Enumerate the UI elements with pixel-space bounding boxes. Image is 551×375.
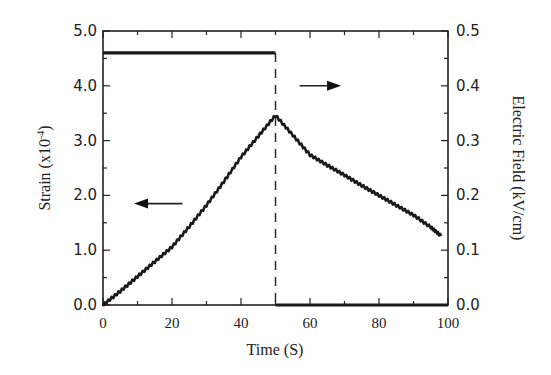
- y-tick-label-right: 0.2: [456, 186, 480, 204]
- x-tick-label: 0: [99, 315, 107, 331]
- chart-canvas: 0204060801000.01.02.03.04.05.00.00.10.20…: [0, 0, 551, 375]
- y-tick-label-right: 0.5: [456, 22, 480, 40]
- x-tick-label: 100: [437, 315, 460, 331]
- arrow-left-icon: [134, 199, 148, 209]
- x-tick-label: 60: [303, 315, 318, 331]
- y-tick-label-left: 0.0: [73, 296, 97, 314]
- y-axis-title-left: Strain (x10-4): [35, 125, 54, 210]
- x-tick-label: 20: [165, 315, 180, 331]
- x-tick-label: 80: [372, 315, 387, 331]
- y-tick-label-right: 0.4: [456, 77, 480, 95]
- strain-curve: [103, 116, 441, 306]
- y-tick-label-left: 3.0: [73, 132, 97, 150]
- axis-tick-labels: 0204060801000.01.02.03.04.05.00.00.10.20…: [73, 22, 480, 331]
- y-tick-label-left: 1.0: [73, 241, 97, 259]
- y-tick-label-left: 5.0: [73, 22, 97, 40]
- x-axis-title: Time (S): [247, 341, 304, 359]
- arrow-right-icon: [327, 81, 341, 91]
- y-tick-label-right: 0.3: [456, 132, 480, 150]
- y-tick-label-right: 0.0: [456, 296, 480, 314]
- x-tick-label: 40: [234, 315, 249, 331]
- y-tick-label-right: 0.1: [456, 241, 480, 259]
- annotations: [134, 53, 341, 305]
- chart: 0204060801000.01.02.03.04.05.00.00.10.20…: [0, 0, 551, 375]
- y-tick-label-left: 2.0: [73, 186, 97, 204]
- y-tick-label-left: 4.0: [73, 77, 97, 95]
- y-axis-title-right: Electric Field (kV/cm): [509, 96, 527, 241]
